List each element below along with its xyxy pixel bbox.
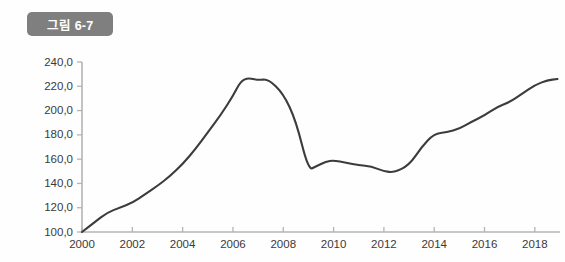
line-chart: 100,0120,0140,0160,0180,0200,0220,0240,0… [0,0,565,262]
figure-container: 그림 6-7 100,0120,0140,0160,0180,0200,0220… [0,0,565,262]
x-tick-label: 2010 [321,238,347,250]
x-tick-group: 2000200220042006200820102012201420162018 [69,227,547,250]
x-tick-label: 2014 [421,238,447,250]
x-tick-label: 2016 [472,238,498,250]
y-tick-label: 140,0 [44,177,73,189]
x-axis-group: 2000200220042006200820102012201420162018 [69,227,560,250]
y-tick-label: 220,0 [44,80,73,92]
x-tick-label: 2006 [220,238,246,250]
y-tick-label: 100,0 [44,226,73,238]
x-tick-label: 2008 [270,238,296,250]
y-tick-group: 100,0120,0140,0160,0180,0200,0220,0240,0 [44,56,82,238]
y-tick-label: 180,0 [44,128,73,140]
series-group [82,79,557,232]
y-tick-label: 160,0 [44,153,73,165]
x-tick-label: 2000 [69,238,95,250]
x-tick-label: 2018 [522,238,548,250]
y-tick-label: 120,0 [44,201,73,213]
y-tick-label: 240,0 [44,56,73,68]
x-tick-label: 2004 [170,238,196,250]
y-tick-label: 200,0 [44,104,73,116]
x-tick-label: 2002 [120,238,146,250]
x-tick-label: 2012 [371,238,397,250]
data-line-index [82,79,557,232]
y-axis-group: 100,0120,0140,0160,0180,0200,0220,0240,0 [44,56,82,238]
